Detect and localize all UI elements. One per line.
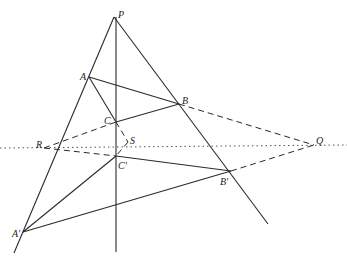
dash-R-C-prime	[44, 148, 116, 156]
edge-CB	[116, 104, 179, 122]
label-P: P	[117, 9, 124, 20]
label-A-prime: A′	[11, 228, 21, 239]
ray-P-A-prime	[14, 17, 114, 253]
label-A: A	[79, 71, 87, 82]
label-B: B	[182, 95, 188, 106]
label-R: R	[35, 139, 42, 150]
perspective-axis-line	[0, 145, 347, 148]
label-S: S	[130, 135, 135, 146]
dash-C-S	[116, 122, 128, 142]
desargues-diagram: P A B C S R Q C′ B′ A′	[0, 0, 347, 260]
edge-A-prime-C-prime	[23, 156, 116, 232]
label-C: C	[104, 115, 111, 126]
dash-S-C-prime	[116, 142, 128, 156]
ray-P-B-prime	[114, 17, 268, 224]
edge-A-prime-B-prime	[23, 171, 231, 232]
label-Q: Q	[316, 135, 324, 146]
label-B-prime: B′	[220, 176, 229, 187]
edge-C-prime-B-prime	[116, 156, 231, 171]
dash-B-Q	[179, 104, 314, 145]
label-C-prime: C′	[118, 160, 128, 171]
dash-B-prime-Q	[231, 145, 314, 171]
